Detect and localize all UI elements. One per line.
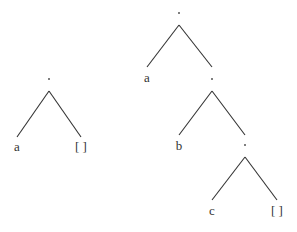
edge-t2-root-left: [147, 25, 179, 67]
t2-root-node: [178, 12, 180, 14]
t2-leaf-a: a: [144, 71, 150, 84]
edge-t1-right: [49, 91, 81, 137]
edge-t2-n2-right: [212, 91, 245, 135]
edge-t2-n3-left: [212, 157, 245, 200]
t2-leaf-c: c: [209, 204, 215, 217]
t2-node-2: [211, 78, 213, 80]
t1-root-node: [48, 78, 50, 80]
edge-t2-n2-left: [179, 91, 212, 135]
edge-t1-left: [17, 91, 49, 137]
t2-leaf-nil: [ ]: [271, 204, 283, 217]
tree-diagram-canvas: a [ ] a b c [ ]: [0, 0, 297, 232]
edge-t2-n3-right: [245, 157, 277, 200]
t1-leaf-a: a: [14, 140, 20, 153]
t2-node-3: [244, 144, 246, 146]
tree-edges: [0, 0, 297, 232]
edge-t2-root-right: [179, 25, 212, 67]
t2-leaf-b: b: [176, 139, 183, 152]
t1-leaf-nil: [ ]: [75, 140, 87, 153]
